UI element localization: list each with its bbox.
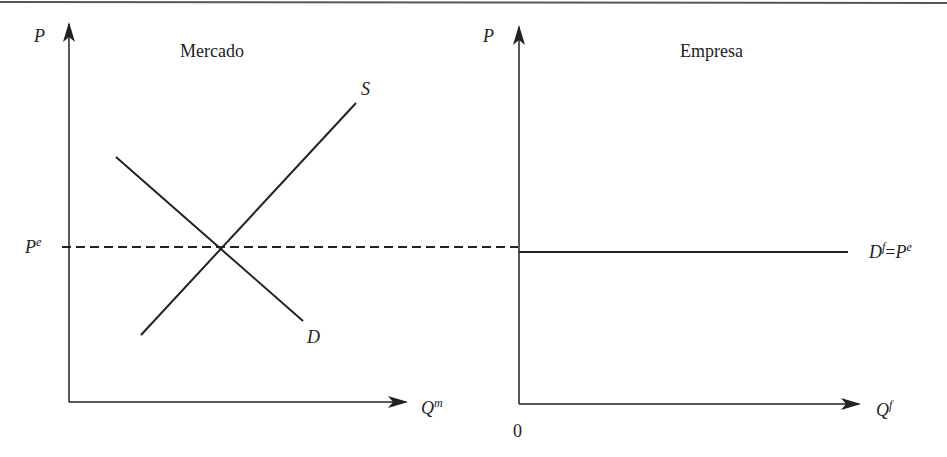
market-panel: P Mercado Qm Pe D S	[24, 24, 443, 418]
firm-panel: P Empresa 0 Qf Df=Pe	[482, 26, 913, 441]
firm-demand-equals: =	[885, 242, 895, 262]
firm-x-axis-label-sup: f	[889, 398, 894, 412]
equilibrium-price-label: Pe	[24, 235, 42, 257]
market-title: Mercado	[180, 41, 244, 61]
market-x-axis-label-sup: m	[434, 396, 443, 410]
market-demand-label: D	[306, 327, 320, 347]
equilibrium-price-base: P	[24, 237, 36, 257]
firm-y-axis-label: P	[482, 26, 494, 46]
firm-demand-price-sup: e	[907, 240, 913, 254]
firm-demand-label: Df=Pe	[868, 240, 913, 262]
market-demand-curve	[116, 157, 303, 321]
market-x-axis-label: Qm	[421, 396, 443, 418]
market-supply-label: S	[361, 79, 370, 99]
market-supply-curve	[141, 103, 356, 335]
equilibrium-price-sup: e	[36, 235, 42, 249]
market-x-axis-label-base: Q	[421, 398, 434, 418]
firm-demand-price-base: P	[895, 242, 907, 262]
firm-x-axis-label: Qf	[876, 398, 894, 420]
market-y-axis-label: P	[33, 26, 45, 46]
top-rule	[0, 2, 947, 3]
firm-title: Empresa	[680, 41, 743, 61]
firm-x-axis-label-base: Q	[876, 400, 889, 420]
market-firm-diagram: P Mercado Qm Pe D S P Empresa 0 Qf Df=Pe	[0, 0, 947, 457]
firm-origin-label: 0	[513, 421, 522, 441]
firm-demand-base: D	[868, 242, 882, 262]
